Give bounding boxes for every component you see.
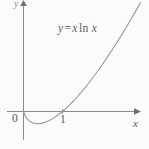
- x-tick-one-label: 1: [60, 114, 66, 126]
- equation-ln-function: ln: [78, 22, 89, 34]
- y-axis-arrow-icon: [20, 0, 27, 6]
- x-axis-label: x: [133, 118, 138, 129]
- equation-annotation: y=xln x: [58, 23, 97, 35]
- y-axis-label: y: [14, 0, 18, 9]
- origin-label: 0: [12, 113, 18, 125]
- curve-y-equals-x-ln-x: [24, 3, 141, 124]
- equation-equals-sign: =: [63, 22, 72, 34]
- x-axis-arrow-icon: [134, 108, 141, 115]
- function-graph-figure: y=xln x y x 0 1: [0, 0, 149, 149]
- equation-x-term: x: [72, 22, 77, 34]
- equation-x-argument: x: [92, 22, 97, 34]
